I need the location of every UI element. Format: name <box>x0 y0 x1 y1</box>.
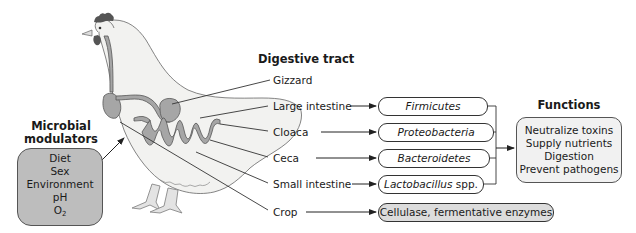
digestive-tract-title: Digestive tract <box>258 53 368 66</box>
lactobacillus-spp: spp. <box>452 178 477 190</box>
functions-bracket <box>484 106 496 184</box>
function-item: Prevent pathogens <box>517 163 621 176</box>
microbe-pill-lactobacillus: Lactobacillus spp. <box>378 175 484 194</box>
microbe-pill-proteobacteria: Proteobacteria <box>378 123 494 142</box>
function-item: Digestion <box>517 150 621 163</box>
chicken-body <box>99 20 302 194</box>
chicken-beak <box>82 30 92 36</box>
modulator-item: pH <box>18 191 102 204</box>
organ-label-ceca: Ceca <box>273 152 299 164</box>
o2-symbol: O <box>54 204 62 216</box>
modulator-item: Diet <box>18 152 102 165</box>
functions-box: Neutralize toxins Supply nutrients Diges… <box>516 117 622 183</box>
organ-label-gizzard: Gizzard <box>273 74 312 86</box>
modulator-item: Environment <box>18 178 102 191</box>
organ-label-crop: Crop <box>273 206 298 218</box>
enzyme-pill-cellulase: Cellulase, fermentative enzymes <box>378 203 554 222</box>
function-item: Neutralize toxins <box>517 124 621 137</box>
modulator-item: Sex <box>18 165 102 178</box>
modulators-title: Microbial modulators <box>16 120 106 146</box>
chicken-illustration <box>82 13 302 213</box>
modulator-item-o2: O2 <box>18 204 102 221</box>
modulators-title-line2: modulators <box>16 133 106 146</box>
organ-label-cloaca: Cloaca <box>273 126 308 138</box>
functions-title: Functions <box>516 99 622 112</box>
microbe-pill-bacteroidetes: Bacteroidetes <box>378 149 490 168</box>
microbe-pill-firmicutes: Firmicutes <box>378 97 488 116</box>
modulators-box: Diet Sex Environment pH O2 <box>17 148 103 226</box>
organ-to-microbe-arrows <box>306 106 376 212</box>
lactobacillus-genus: Lactobacillus <box>384 178 452 190</box>
function-item: Supply nutrients <box>517 137 621 150</box>
organ-label-large-intestine: Large intestine <box>273 100 352 112</box>
organ-label-small-intestine: Small intestine <box>273 178 351 190</box>
o2-subscript: 2 <box>62 210 66 218</box>
